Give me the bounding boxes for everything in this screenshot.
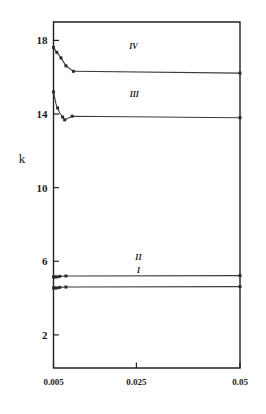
data-point-marker bbox=[52, 90, 55, 93]
y-axis-title: k bbox=[19, 151, 26, 166]
chart-background bbox=[0, 0, 266, 414]
data-point-marker bbox=[58, 275, 61, 278]
data-point-marker bbox=[55, 275, 58, 278]
chart-container: 26101418 0.0050.0250.05 k IIIIIIIV bbox=[0, 0, 266, 414]
data-point-marker bbox=[61, 116, 64, 119]
data-point-marker bbox=[239, 72, 242, 75]
x-tick-label: 0.025 bbox=[126, 377, 147, 387]
data-point-marker bbox=[52, 46, 55, 49]
y-tick-label: 6 bbox=[42, 255, 48, 267]
data-point-marker bbox=[64, 64, 67, 67]
y-tick-label: 2 bbox=[42, 329, 48, 341]
data-point-marker bbox=[239, 285, 242, 288]
data-point-marker bbox=[239, 274, 242, 277]
data-point-marker bbox=[58, 286, 61, 289]
x-tick-label: 0.05 bbox=[232, 377, 248, 387]
data-point-marker bbox=[64, 286, 67, 289]
data-point-marker bbox=[55, 286, 58, 289]
data-point-marker bbox=[71, 115, 74, 118]
y-tick-label: 14 bbox=[37, 108, 49, 120]
data-point-marker bbox=[72, 70, 75, 73]
curve-label-III: III bbox=[129, 90, 140, 99]
line-chart: 26101418 0.0050.0250.05 k IIIIIIIV bbox=[0, 0, 266, 414]
data-point-marker bbox=[64, 274, 67, 277]
data-point-marker bbox=[63, 118, 66, 121]
data-point-marker bbox=[239, 116, 242, 119]
y-tick-label: 18 bbox=[37, 34, 49, 46]
data-point-marker bbox=[55, 51, 58, 54]
curve-label-II: II bbox=[134, 253, 142, 262]
y-tick-label: 10 bbox=[37, 182, 49, 194]
data-point-marker bbox=[59, 56, 62, 59]
curve-label-IV: IV bbox=[128, 42, 138, 51]
x-tick-label: 0.005 bbox=[43, 377, 64, 387]
data-point-marker bbox=[56, 106, 59, 109]
